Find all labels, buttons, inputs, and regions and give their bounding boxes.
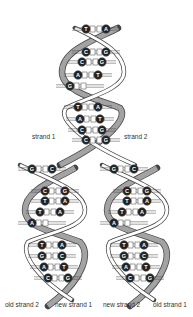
svg-text:C: C [84,49,88,55]
base-g-icon: G [28,165,36,173]
parent-pair-6: AT [66,115,114,123]
parent-pair-3: AT [64,71,112,79]
svg-text:C: C [84,137,88,143]
base-a-icon: A [94,103,102,111]
base-g-icon: G [61,187,69,195]
svg-text:C: C [132,166,136,172]
base-g-icon: G [98,58,106,66]
base-t-icon: T [118,208,126,216]
svg-text:G: G [145,188,149,194]
base-a-icon: A [138,208,146,216]
base-a-icon: A [58,241,66,249]
svg-text:A: A [42,264,46,270]
svg-text:A: A [58,209,62,215]
base-g-icon: G [98,126,106,134]
right-daughter-pair-6: GC [110,252,158,260]
left-daughter-helix [20,165,85,306]
base-a-icon: A [40,263,48,271]
base-c-icon: C [140,252,148,260]
svg-text:G: G [30,166,34,172]
base-g-icon: G [146,274,154,282]
svg-text:A: A [63,198,67,204]
label-strand-1: strand 1 [32,133,56,140]
svg-text:C: C [43,188,47,194]
svg-text:G: G [66,275,70,281]
base-t-icon: T [38,241,46,249]
base-a-icon: A [28,219,36,227]
base-g-icon: G [38,252,46,260]
base-a-icon: A [102,25,110,33]
base-c-icon: C [82,136,90,144]
parent-helix [60,28,135,165]
svg-text:G: G [63,188,67,194]
base-t-icon: T [36,208,44,216]
base-t-icon: T [96,115,104,123]
label-strand-2: strand 2 [124,133,148,140]
base-g-icon: G [120,252,128,260]
label-new-strand-2: new strand 2 [103,301,140,308]
left-daughter-pair-3: TA [26,208,74,216]
base-g-icon: G [64,274,72,282]
svg-text:C: C [80,59,84,65]
base-t-icon: T [41,197,49,205]
svg-text:A: A [145,198,149,204]
base-a-icon: A [74,71,82,79]
diagram-canvas: TACGCGATGTAATCGCGGCCGTATAATAGCATCGGCCGTA… [0,0,193,317]
svg-text:G: G [104,49,108,55]
base-c-icon: C [48,165,56,173]
svg-text:G: G [104,137,108,143]
base-t-icon: T [82,25,90,33]
base-c-icon: C [58,252,66,260]
parent-pair-2: CG [68,58,116,66]
svg-text:A: A [142,242,146,248]
svg-text:A: A [78,116,82,122]
svg-text:C: C [46,275,50,281]
right-daughter-helix [102,165,167,306]
label-old-strand-2: old strand 2 [5,301,39,308]
right-daughter-pair-2: TA [113,197,161,205]
svg-text:C: C [125,188,129,194]
svg-text:A: A [96,104,100,110]
svg-text:C: C [142,253,146,259]
base-t-icon: T [120,241,128,249]
svg-text:A: A [112,220,116,226]
base-c-icon: C [41,187,49,195]
svg-text:A: A [30,220,34,226]
svg-text:G: G [122,253,126,259]
base-t-icon: T [60,263,68,271]
dna-replication-diagram: TACGCGATGTAATCGCGGCCGTATAATAGCATCGGCCGTA… [0,0,193,317]
svg-text:A: A [104,26,108,32]
svg-text:A: A [76,72,80,78]
right-daughter-pair-5: TA [110,241,158,249]
base-c-icon: C [44,274,52,282]
svg-text:C: C [128,275,132,281]
base-t-icon: T [74,103,82,111]
base-a-icon: A [76,115,84,123]
base-g-icon: G [102,48,110,56]
svg-text:C: C [80,127,84,133]
svg-text:A: A [60,242,64,248]
label-old-strand-1: old strand 1 [153,301,187,308]
svg-text:A: A [124,264,128,270]
base-g-icon: G [143,187,151,195]
base-c-icon: C [130,165,138,173]
left-daughter-pair-6: GC [28,252,76,260]
base-c-icon: C [78,58,86,66]
base-a-icon: A [140,241,148,249]
base-pairs: TACGCGATGTAATCGCGGCCGTATAATAGCATCGGCCGTA… [18,25,164,282]
base-c-icon: C [123,187,131,195]
base-g-icon: G [110,165,118,173]
label-new-strand-1: new strand 1 [55,301,92,308]
svg-text:G: G [40,253,44,259]
base-c-icon: C [126,274,134,282]
base-t-icon: T [94,71,102,79]
left-daughter-pair-5: TA [28,241,76,249]
left-daughter-pair-2: TA [31,197,79,205]
base-t-icon: T [123,197,131,205]
base-c-icon: C [78,126,86,134]
base-a-icon: A [110,219,118,227]
base-a-icon: A [61,197,69,205]
base-a-icon: A [56,208,64,216]
base-g-icon: G [66,82,74,90]
svg-text:G: G [68,83,72,89]
